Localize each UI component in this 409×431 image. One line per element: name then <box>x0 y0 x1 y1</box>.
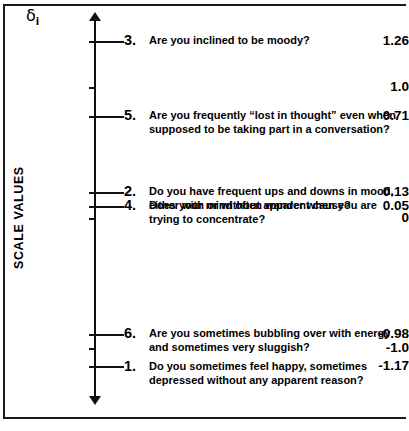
item-number: 3. <box>124 34 149 47</box>
item-text: Are you sometimes bubbling over with ene… <box>149 327 401 354</box>
scale-item: 6.Are you sometimes bubbling over with e… <box>124 327 401 354</box>
item-text: Are you inclined to be moody? <box>149 34 401 48</box>
item-text: Are you frequently “lost in thought” eve… <box>149 109 401 136</box>
figure-top-border <box>3 4 406 6</box>
axis-arrow-up-icon <box>89 12 101 21</box>
item-text: Do you sometimes feel happy, sometimes d… <box>149 360 401 387</box>
item-text: Does your mind often wander when you are… <box>149 199 401 226</box>
axis-arrow-down-icon <box>89 396 101 405</box>
tick-label: 1.0 <box>323 80 409 94</box>
item-number: 6. <box>124 327 149 340</box>
scale-item: 5.Are you frequently “lost in thought” e… <box>124 109 401 136</box>
leader-line <box>95 41 124 43</box>
delta-glyph: δ <box>26 6 36 25</box>
leader-line <box>95 192 124 194</box>
scale-item: 4.Does your mind often wander when you a… <box>124 199 401 226</box>
tick-mark <box>89 87 96 89</box>
item-number: 1. <box>124 360 149 373</box>
figure-bottom-border <box>3 417 406 419</box>
scale-item: 3.Are you inclined to be moody? <box>124 34 401 48</box>
scale-item: 1.Do you sometimes feel happy, sometimes… <box>124 360 401 387</box>
leader-line <box>95 116 124 118</box>
leader-line <box>95 206 124 208</box>
scale-values-figure: δi SCALE VALUES 1.261.00.710.130.050-0.9… <box>0 0 409 431</box>
tick-mark <box>89 218 96 220</box>
vertical-axis-line <box>94 18 96 398</box>
item-number: 5. <box>124 109 149 122</box>
figure-left-border <box>3 4 5 419</box>
delta-axis-symbol: δi <box>26 8 39 27</box>
item-number: 4. <box>124 199 149 212</box>
tick-mark <box>89 348 96 350</box>
axis-title: SCALE VALUES <box>12 169 26 269</box>
delta-subscript: i <box>36 16 39 27</box>
leader-line <box>95 334 124 336</box>
leader-line <box>95 366 124 368</box>
